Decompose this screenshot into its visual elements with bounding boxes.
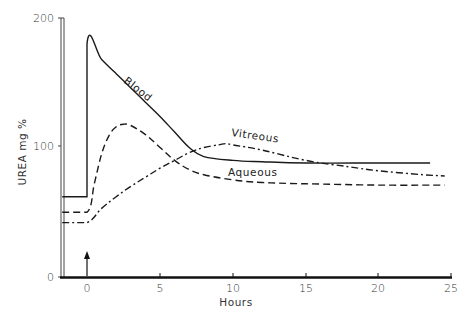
- vitreous-label: Vitreous: [231, 126, 280, 145]
- vitreous-curve: [62, 144, 445, 223]
- y-axis: [58, 18, 64, 277]
- y-axis-title: UREA mg %: [16, 119, 28, 186]
- y-tick-label-0: 0: [47, 271, 54, 284]
- x-tick-label-25: 25: [444, 282, 458, 295]
- x-tick-label-5: 5: [157, 282, 164, 295]
- aqueous-label: Aqueous: [228, 166, 278, 178]
- x-tick-label-10: 10: [226, 282, 240, 295]
- x-tick-label-0: 0: [84, 282, 91, 295]
- urea-chart: 200 100 0 0 5 10 15 20 25 Hours UREA mg …: [0, 0, 472, 320]
- y-tick-label-100: 100: [33, 140, 54, 153]
- y-tick-label-200: 200: [33, 12, 54, 25]
- blood-label: Blood: [122, 74, 155, 104]
- x-tick-label-15: 15: [299, 282, 313, 295]
- x-tick-label-20: 20: [371, 282, 385, 295]
- injection-arrow-icon: [84, 251, 90, 276]
- x-axis: [60, 273, 452, 278]
- x-axis-title: Hours: [219, 296, 252, 308]
